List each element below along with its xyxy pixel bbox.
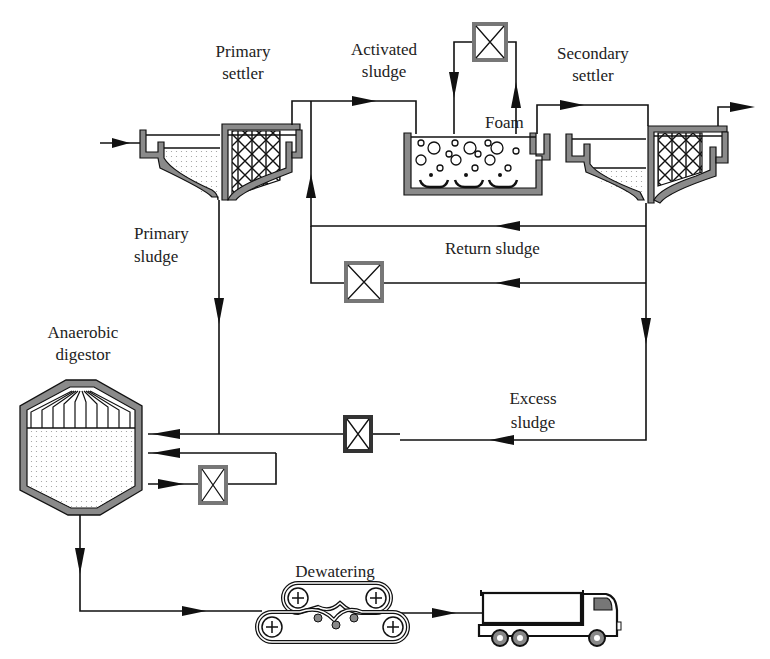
digested-sludge-line	[80, 515, 262, 611]
arrow-icon	[490, 435, 514, 445]
anaerobic-digestor	[20, 380, 142, 515]
label-text: Secondary	[557, 44, 629, 63]
arrow-icon	[496, 278, 520, 288]
arrow-icon	[112, 138, 130, 148]
arrow-icon	[182, 606, 206, 616]
activated-sludge-tank	[404, 133, 550, 195]
label-text: Anaerobic	[48, 323, 119, 342]
arrow-icon	[496, 221, 520, 231]
label-text: Primary	[134, 224, 189, 243]
sludge-truck	[479, 590, 621, 646]
label-primary-sludge: Primary sludge	[134, 224, 189, 266]
arrow-icon	[449, 72, 459, 98]
label-text: settler	[572, 66, 614, 85]
arrow-icon	[214, 298, 224, 324]
label-return-sludge: Return sludge	[445, 239, 540, 258]
label-secondary-settler: Secondary settler	[557, 44, 629, 85]
wastewater-process-diagram: Primary settler Activated sludge Seconda…	[0, 0, 770, 659]
label-primary-settler: Primary settler	[216, 42, 271, 83]
label-text: sludge	[511, 413, 555, 432]
return-sludge-line-upper	[311, 101, 646, 226]
arrow-icon	[641, 318, 651, 344]
primary-settler	[140, 124, 302, 200]
diffusers	[420, 173, 517, 187]
label-activated-sludge: Activated sludge	[351, 40, 418, 81]
return-sludge-line-left	[311, 226, 344, 283]
arrow-icon	[306, 174, 316, 198]
foam-pump[interactable]	[474, 24, 506, 60]
arrow-icon	[352, 96, 376, 106]
digestor-recirculation-pump[interactable]	[200, 467, 226, 503]
label-text: digestor	[56, 345, 111, 364]
line-to-secondary	[537, 105, 648, 134]
truck-tank	[483, 593, 581, 623]
foam-line-down	[454, 42, 474, 134]
arrow-icon	[158, 479, 184, 489]
label-text: sludge	[362, 62, 406, 81]
label-anaerobic-digestor: Anaerobic digestor	[48, 323, 119, 364]
aeration-bubbles	[416, 140, 519, 171]
label-text: settler	[222, 64, 264, 83]
label-text: Excess	[509, 389, 556, 408]
label-foam: Foam	[485, 113, 524, 132]
label-text: sludge	[134, 247, 178, 266]
excess-sludge-pump[interactable]	[345, 417, 371, 451]
arrow-icon	[432, 608, 456, 618]
secondary-settler	[566, 126, 728, 203]
arrow-icon	[152, 448, 180, 458]
arrow-icon	[152, 429, 180, 439]
label-text: Activated	[351, 40, 418, 59]
recirculation-loop-line	[226, 453, 276, 484]
arrow-icon	[730, 102, 755, 112]
label-dewatering: Dewatering	[295, 562, 375, 581]
dewatering-belt-press	[257, 583, 408, 642]
arrow-icon	[511, 82, 521, 108]
arrow-icon	[75, 548, 85, 574]
label-text: Primary	[216, 42, 271, 61]
return-sludge-pump[interactable]	[346, 263, 382, 301]
truck-window	[594, 598, 612, 610]
label-excess-sludge: Excess sludge	[509, 389, 556, 432]
arrow-icon	[560, 100, 584, 110]
